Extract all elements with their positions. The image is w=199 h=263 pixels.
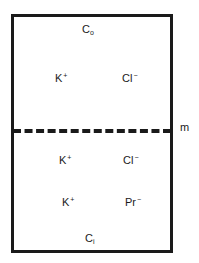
container-box <box>11 14 173 253</box>
outside-concentration-label: Co <box>82 23 94 39</box>
inside-ion-chloride: Cl− <box>123 152 138 166</box>
outside-ion-potassium: K+ <box>55 70 67 84</box>
inside-ion-potassium-2: K+ <box>62 194 74 208</box>
inside-concentration-label: Ci <box>85 232 95 248</box>
outside-ion-chloride: Cl− <box>122 70 137 84</box>
membrane-label: m <box>180 121 189 133</box>
inside-ion-protein: Pr− <box>125 194 141 208</box>
inside-ion-potassium-1: K+ <box>59 152 71 166</box>
membrane-dashed-line <box>13 129 171 133</box>
